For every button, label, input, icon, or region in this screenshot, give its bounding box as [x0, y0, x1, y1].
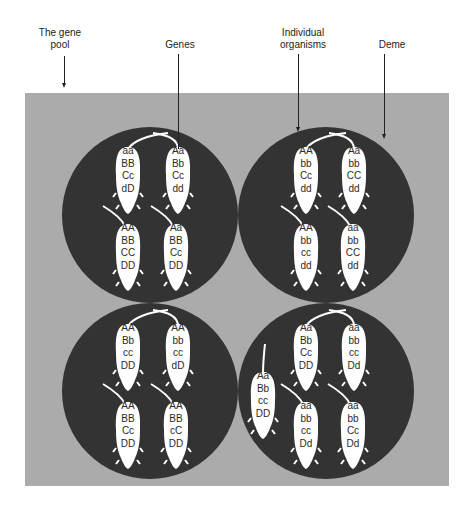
genotype: Aa Bb Cc DD — [291, 322, 321, 372]
gene-c: cc — [113, 347, 143, 360]
gene-c: cc — [339, 347, 369, 360]
genotype: AA bb Cc dd — [291, 145, 321, 195]
gene-a: AA — [291, 222, 321, 235]
gene-a: aa — [338, 222, 368, 235]
gene-c: Cc — [163, 170, 193, 183]
gene-pool-pointer-line — [64, 56, 65, 84]
genotype: Aa BB Cc DD — [161, 222, 191, 272]
gene-a: aa — [338, 400, 368, 413]
gene-b: bb — [339, 335, 369, 348]
individual-organisms-label-line1: Individual — [268, 27, 338, 39]
gene-a: AA — [163, 322, 193, 335]
gene-d: dD — [113, 183, 143, 196]
gene-b: BB — [161, 235, 191, 248]
individual-organisms-label: Individual organisms — [268, 27, 338, 51]
genes-label: Genes — [155, 39, 205, 51]
genotype: aa bb cc Dd — [291, 400, 321, 450]
gene-d: dd — [163, 183, 193, 196]
individual-organisms-arrow-icon — [296, 127, 300, 132]
deme-bottom-left — [62, 303, 238, 479]
gene-c: cc — [291, 247, 321, 260]
gene-pool-label: The gene pool — [30, 27, 90, 51]
deme-top-right — [238, 127, 414, 303]
gene-c: cc — [248, 395, 278, 408]
gene-b: Bb — [248, 383, 278, 396]
gene-a: Aa — [339, 145, 369, 158]
genotype: Aa Bb cc DD — [248, 370, 278, 420]
gene-a: Aa — [291, 322, 321, 335]
gene-pool-arrow-icon — [62, 83, 66, 88]
gene-c: CC — [113, 247, 143, 260]
gene-d: dD — [163, 360, 193, 373]
gene-c: Cc — [113, 170, 143, 183]
gene-c: cc — [163, 347, 193, 360]
gene-c: CC — [339, 170, 369, 183]
gene-d: DD — [113, 260, 143, 273]
gene-a: aa — [113, 145, 143, 158]
gene-d: DD — [291, 360, 321, 373]
gene-pool-label-line2: pool — [30, 39, 90, 51]
gene-b: BB — [113, 413, 143, 426]
gene-a: Aa — [248, 370, 278, 383]
gene-d: dd — [339, 183, 369, 196]
gene-d: Dd — [291, 438, 321, 451]
gene-b: Bb — [163, 158, 193, 171]
gene-d: DD — [161, 260, 191, 273]
gene-a: Aa — [161, 222, 191, 235]
gene-c: Cc — [291, 170, 321, 183]
gene-a: aa — [339, 322, 369, 335]
gene-a: AA — [161, 400, 191, 413]
genotype: Aa bb CC dd — [339, 145, 369, 195]
gene-a: AA — [113, 322, 143, 335]
gene-b: BB — [161, 413, 191, 426]
gene-d: dd — [291, 260, 321, 273]
gene-b: bb — [338, 235, 368, 248]
gene-c: Cc — [291, 347, 321, 360]
deme-pointer-line — [384, 54, 385, 135]
gene-pool-label-line1: The gene — [30, 27, 90, 39]
genotype: AA bb cc dd — [291, 222, 321, 272]
gene-a: aa — [291, 400, 321, 413]
gene-d: dd — [338, 260, 368, 273]
genotype: aa BB Cc dD — [113, 145, 143, 195]
gene-b: bb — [339, 158, 369, 171]
genotype: AA bb cc dD — [163, 322, 193, 372]
genotype: aa bb CC dd — [338, 222, 368, 272]
gene-d: dd — [291, 183, 321, 196]
gene-c: CC — [338, 247, 368, 260]
genotype: aa bb cc Dd — [339, 322, 369, 372]
genotype: AA BB CC DD — [113, 222, 143, 272]
gene-c: Cc — [161, 247, 191, 260]
individual-organisms-pointer-line — [298, 54, 299, 128]
gene-b: BB — [113, 235, 143, 248]
individual-organisms-label-line2: organisms — [268, 39, 338, 51]
genotype: Aa Bb Cc dd — [163, 145, 193, 195]
deme-arrow-icon — [382, 134, 386, 139]
gene-c: Cc — [338, 425, 368, 438]
gene-d: DD — [248, 408, 278, 421]
gene-d: Dd — [339, 360, 369, 373]
genotype: aa bb Cc Dd — [338, 400, 368, 450]
gene-b: bb — [338, 413, 368, 426]
gene-c: cC — [161, 425, 191, 438]
gene-c: Cc — [113, 425, 143, 438]
genotype: AA BB Cc DD — [113, 400, 143, 450]
gene-d: DD — [113, 438, 143, 451]
deme-top-left — [62, 127, 238, 303]
gene-d: Dd — [338, 438, 368, 451]
gene-a: AA — [291, 145, 321, 158]
gene-b: bb — [291, 235, 321, 248]
gene-b: Bb — [113, 335, 143, 348]
gene-d: DD — [161, 438, 191, 451]
gene-b: bb — [291, 158, 321, 171]
gene-b: BB — [113, 158, 143, 171]
gene-a: AA — [113, 222, 143, 235]
gene-d: DD — [113, 360, 143, 373]
gene-b: bb — [291, 413, 321, 426]
gene-c: cc — [291, 425, 321, 438]
genes-pointer-line — [178, 54, 179, 149]
genotype: AA BB cC DD — [161, 400, 191, 450]
genotype: AA Bb cc DD — [113, 322, 143, 372]
gene-a: AA — [113, 400, 143, 413]
gene-b: bb — [163, 335, 193, 348]
